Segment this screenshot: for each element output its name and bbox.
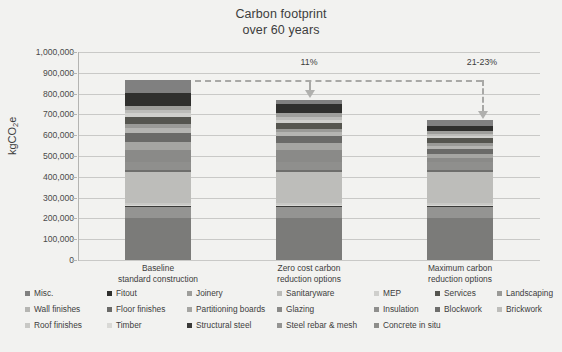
legend-item[interactable]: Insulation [374, 304, 419, 314]
bar-segment[interactable] [276, 218, 342, 260]
legend-label: Wall finishes [34, 304, 80, 314]
bar-segment[interactable] [427, 207, 493, 218]
legend-label: Glazing [286, 304, 314, 314]
legend-swatch-icon [497, 291, 502, 296]
bar-segment[interactable] [427, 172, 493, 203]
legend-swatch-icon [374, 307, 379, 312]
legend-label: Misc. [34, 288, 53, 298]
legend-swatch-icon [187, 291, 192, 296]
legend-label: Roof finishes [34, 320, 82, 330]
gridline [78, 73, 540, 74]
legend-item[interactable]: Floor finishes [107, 304, 165, 314]
legend-item[interactable]: Steel rebar & mesh [277, 320, 357, 330]
legend-label: Floor finishes [116, 304, 165, 314]
y-axis-tick [72, 94, 77, 95]
bar-segment[interactable] [276, 172, 342, 203]
category-label-line: Maximum carbon [385, 263, 535, 274]
y-axis-tick [72, 260, 77, 261]
legend-label: Concrete in situ [383, 320, 441, 330]
y-axis-tick [72, 198, 77, 199]
bar-segment[interactable] [427, 162, 493, 171]
legend-item[interactable]: MEP [374, 288, 401, 298]
legend-item[interactable]: Brickwork [497, 304, 542, 314]
legend-label: Joinery [196, 288, 223, 298]
category-label-line: standard construction [83, 274, 233, 285]
bar-segment[interactable] [125, 133, 191, 141]
y-axis-tick-label: 300,000 [8, 193, 74, 203]
chart-root: Carbon footprint over 60 years kgCO2e 1,… [0, 0, 562, 352]
baseline-reference-dashed-line [195, 80, 482, 82]
bar-segment[interactable] [276, 136, 342, 143]
y-axis-tick [72, 52, 77, 53]
legend-row: Roof finishesTimberStructural steelSteel… [0, 320, 562, 335]
legend-item[interactable]: Structural steel [187, 320, 251, 330]
legend-swatch-icon [374, 323, 379, 328]
bar-segment[interactable] [125, 162, 191, 171]
legend: Misc.FitoutJoinerySanitarywareMEPService… [0, 288, 562, 344]
legend-item[interactable]: Landscaping [497, 288, 553, 298]
legend-swatch-icon [497, 307, 502, 312]
reduction-arrow-1-line [309, 80, 311, 90]
legend-swatch-icon [107, 307, 112, 312]
gridline [78, 260, 540, 261]
category-label-line: Zero cost carbon [234, 263, 384, 274]
legend-row: Misc.FitoutJoinerySanitarywareMEPService… [0, 288, 562, 303]
bar-segment[interactable] [125, 117, 191, 124]
bar-segment[interactable] [125, 93, 191, 106]
x-axis-category-label: Baselinestandard construction [83, 263, 233, 285]
legend-item[interactable]: Concrete in situ [374, 320, 441, 330]
x-axis-category-label: Maximum carbonreduction options [385, 263, 535, 285]
bar-stack[interactable] [276, 100, 342, 260]
bar-segment[interactable] [276, 162, 342, 171]
legend-item[interactable]: Services [435, 288, 476, 298]
bar-segment[interactable] [427, 218, 493, 260]
legend-label: Landscaping [506, 288, 553, 298]
legend-label: Fitout [116, 288, 137, 298]
bar-segment[interactable] [125, 142, 191, 150]
legend-swatch-icon [277, 291, 282, 296]
gridline [78, 52, 540, 53]
legend-item[interactable]: Joinery [187, 288, 223, 298]
y-axis-tick [72, 156, 77, 157]
legend-swatch-icon [25, 307, 30, 312]
bar-segment[interactable] [276, 104, 342, 113]
bar-stack[interactable] [427, 120, 493, 260]
legend-swatch-icon [374, 291, 379, 296]
legend-label: Brickwork [506, 304, 542, 314]
y-axis-tick [72, 239, 77, 240]
y-axis-tick [72, 177, 77, 178]
legend-item[interactable]: Glazing [277, 304, 314, 314]
legend-item[interactable]: Wall finishes [25, 304, 80, 314]
bar-segment[interactable] [125, 80, 191, 92]
legend-item[interactable]: Timber [107, 320, 142, 330]
reduction-arrow-1-head [305, 90, 315, 98]
legend-item[interactable]: Blockwork [435, 304, 482, 314]
category-label-line: reduction options [385, 274, 535, 285]
bar-segment[interactable] [125, 150, 191, 162]
legend-swatch-icon [435, 307, 440, 312]
legend-swatch-icon [277, 307, 282, 312]
legend-label: Sanitaryware [286, 288, 334, 298]
legend-item[interactable]: Fitout [107, 288, 137, 298]
bar-segment[interactable] [125, 172, 191, 203]
y-axis-tick [72, 114, 77, 115]
y-axis-title-sub: 2 [11, 123, 20, 127]
legend-item[interactable]: Misc. [25, 288, 53, 298]
legend-item[interactable]: Partitioning boards [187, 304, 265, 314]
legend-label: Structural steel [196, 320, 251, 330]
legend-item[interactable]: Roof finishes [25, 320, 82, 330]
legend-item[interactable]: Sanitaryware [277, 288, 334, 298]
y-axis-tick [72, 218, 77, 219]
legend-swatch-icon [187, 323, 192, 328]
y-axis-tick-label: 200,000 [8, 213, 74, 223]
y-axis-tick [72, 73, 77, 74]
bar-segment[interactable] [427, 120, 493, 127]
bar-segment[interactable] [125, 207, 191, 218]
bar-stack[interactable] [125, 80, 191, 260]
y-axis-tick-label: 400,000 [8, 172, 74, 182]
category-label-line: Baseline [83, 263, 233, 274]
bar-segment[interactable] [276, 207, 342, 218]
bar-segment[interactable] [276, 150, 342, 162]
bar-segment[interactable] [125, 218, 191, 260]
category-label-line: reduction options [234, 274, 384, 285]
